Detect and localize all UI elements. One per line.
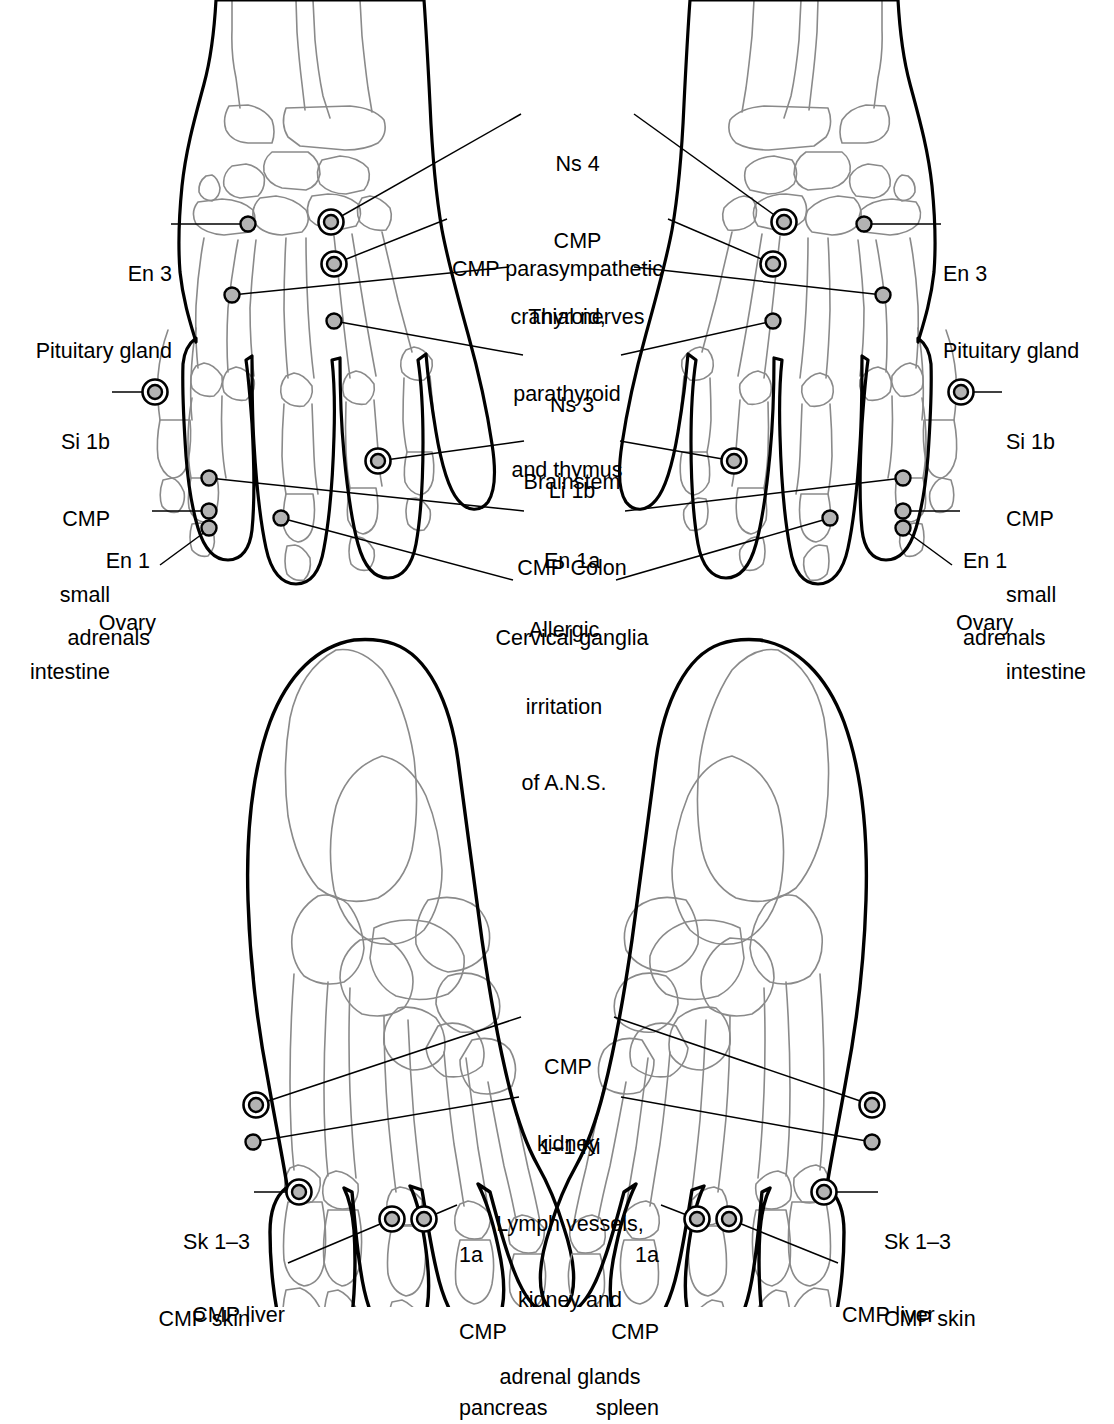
marker-ovary[interactable] [202, 521, 217, 536]
label-en3-left-line1: En 3 [12, 262, 172, 288]
label-ki-1-1-line1: 1–1 Ki [437, 1135, 703, 1161]
marker-ki-1-1[interactable] [865, 1135, 880, 1150]
marker-sk1-3[interactable] [812, 1180, 837, 1205]
label-si1b-right-line1: Si 1b [1006, 430, 1114, 456]
marker-li1b[interactable] [366, 449, 391, 474]
marker-allergic[interactable] [823, 511, 838, 526]
label-en3-right: En 3 Pituitary gland [943, 211, 1113, 390]
marker-en1[interactable] [896, 504, 911, 519]
label-thyroid-line1: Thyroid, [443, 305, 691, 331]
marker-li1b[interactable] [722, 449, 747, 474]
label-spleen-line2: CMP [516, 1320, 659, 1346]
right-hand-bones [675, 0, 957, 580]
label-allergic-line2: irritation [444, 695, 684, 721]
label-allergic-line3: of A.N.S. [444, 771, 684, 797]
marker-cmp-liver[interactable] [380, 1207, 405, 1232]
label-ovary-left-line1: Ovary [20, 611, 156, 637]
leader-ovary-left [160, 529, 209, 565]
marker-en1[interactable] [202, 504, 217, 519]
label-ns3-line1: Ns 3 [444, 393, 700, 419]
left-hand-bones [157, 0, 439, 580]
marker-pancreas[interactable] [412, 1207, 437, 1232]
marker-cmp-liver[interactable] [717, 1207, 742, 1232]
label-cmp-liver-right-line1: CMP liver [842, 1303, 1022, 1329]
leader-para-left [334, 219, 447, 264]
marker-ovary[interactable] [896, 521, 911, 536]
marker-en1a[interactable] [202, 471, 217, 486]
label-en3-left-line2: Pituitary gland [12, 339, 172, 365]
label-cmp-kidney-line1: CMP [455, 1055, 681, 1081]
leader-ovary-right [903, 529, 952, 565]
marker-thyroid[interactable] [876, 288, 891, 303]
label-ovary-right-line1: Ovary [956, 611, 1096, 637]
marker-sk1-3[interactable] [287, 1180, 312, 1205]
label-ns4-line1: Ns 4 [447, 152, 708, 178]
marker-parasympathetic[interactable] [761, 252, 786, 277]
marker-ns3[interactable] [766, 314, 781, 329]
label-ovary-right: Ovary [956, 560, 1096, 662]
marker-cmp-kidney[interactable] [244, 1093, 269, 1118]
label-en3-right-line1: En 3 [943, 262, 1113, 288]
label-spleen-line3: spleen [516, 1396, 659, 1422]
leader-liver-left [288, 1219, 392, 1263]
marker-allergic[interactable] [274, 511, 289, 526]
label-cmp-liver-left-line1: CMP liver [110, 1303, 285, 1329]
label-cmp-liver-right: CMP liver [842, 1252, 1022, 1354]
marker-ns4[interactable] [319, 210, 344, 235]
marker-en3[interactable] [857, 217, 872, 232]
label-en3-right-line2: Pituitary gland [943, 339, 1113, 365]
marker-cmp-kidney[interactable] [860, 1093, 885, 1118]
label-allergic-line1: Allergic [444, 618, 684, 644]
leader-liver-right [729, 1219, 838, 1263]
marker-thyroid[interactable] [225, 288, 240, 303]
label-ovary-left: Ovary [20, 560, 156, 662]
label-allergic: Allergic irritation of A.N.S. [444, 567, 684, 822]
label-cmp-liver-left: CMP liver [110, 1252, 285, 1354]
marker-ns4[interactable] [772, 210, 797, 235]
label-spleen: 1a CMP spleen [516, 1192, 659, 1424]
label-spleen-line1: 1a [516, 1243, 659, 1269]
marker-en1a[interactable] [896, 471, 911, 486]
marker-parasympathetic[interactable] [322, 252, 347, 277]
marker-ki-1-1[interactable] [246, 1135, 261, 1150]
label-si1b-left-line1: Si 1b [0, 430, 110, 456]
marker-ns3[interactable] [327, 314, 342, 329]
label-en3-left: En 3 Pituitary gland [12, 211, 172, 390]
marker-en3[interactable] [241, 217, 256, 232]
